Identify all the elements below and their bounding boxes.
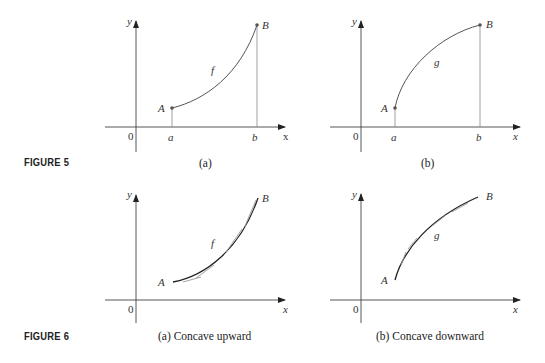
tick-b-label: b	[252, 131, 258, 143]
x-axis-label: x	[282, 303, 288, 315]
point-A	[170, 106, 174, 110]
tick-a-label: a	[168, 131, 174, 143]
function-g-label: g	[434, 56, 440, 68]
tangent-line	[183, 277, 201, 282]
tangent-line	[226, 229, 242, 252]
point-A-label: A	[157, 276, 165, 288]
y-axis-label: y	[351, 15, 357, 27]
figure5b-plot: y 0 a b x x A B g	[283, 15, 520, 152]
y-axis-label: y	[126, 15, 132, 27]
diagram-canvas: y 0 a b A B f y 0 a b x x A B g y 0 A	[0, 0, 545, 363]
point-A	[393, 106, 397, 110]
y-axis-label: y	[351, 188, 357, 200]
tangent-line	[432, 215, 446, 226]
figure-6b-caption: (b) Concave downward	[376, 330, 484, 342]
figure6b-plot: y 0 A B g x	[330, 188, 520, 323]
figure-5a-caption: (a)	[199, 157, 212, 169]
y-axis-label: y	[126, 188, 132, 200]
tangent-line	[245, 200, 256, 226]
function-f-label: f	[211, 64, 216, 76]
figure6a-plot: y 0 A B f x	[105, 188, 288, 323]
tangent-line	[401, 252, 406, 265]
point-B	[255, 23, 259, 27]
tick-b-label: b	[476, 131, 482, 143]
figure-5b-caption: (b)	[421, 157, 434, 169]
point-B	[478, 23, 482, 27]
curve-f	[173, 198, 258, 282]
origin-label: 0	[128, 303, 134, 315]
x-axis-label: x	[512, 130, 518, 142]
origin-label: 0	[353, 130, 359, 142]
origin-label: 0	[128, 130, 134, 142]
point-A-label: A	[380, 102, 388, 114]
function-f-label: f	[211, 237, 216, 249]
tick-a-label: a	[391, 131, 397, 143]
point-B-label: B	[262, 192, 269, 204]
point-B-label: B	[262, 19, 269, 31]
tangent-line	[196, 265, 214, 278]
origin-label: 0	[353, 303, 359, 315]
figure-5-label: FIGURE 5	[24, 156, 69, 168]
function-g-label: g	[434, 229, 440, 241]
x-axis-label: x	[512, 303, 518, 315]
figure-6-label: FIGURE 6	[24, 330, 69, 342]
point-B-label: B	[486, 190, 493, 202]
figure5a-plot: y 0 a b A B f	[105, 15, 285, 152]
point-B-label: B	[486, 18, 493, 30]
point-A-label: A	[157, 102, 165, 114]
figure-6a-caption: (a) Concave upward	[158, 330, 251, 342]
curve-f	[172, 25, 257, 108]
point-A-label: A	[380, 274, 388, 286]
tangent-line	[452, 203, 468, 212]
tangent-line	[408, 238, 417, 249]
x-axis-label-a: x	[283, 130, 289, 142]
